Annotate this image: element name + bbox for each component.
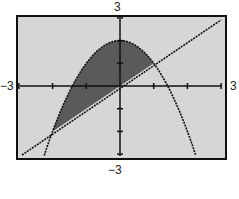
- x-max-label: 3: [230, 80, 237, 92]
- y-min-label: −3: [108, 164, 122, 176]
- x-min-label: −3: [0, 80, 14, 92]
- y-max-label: 3: [114, 1, 121, 13]
